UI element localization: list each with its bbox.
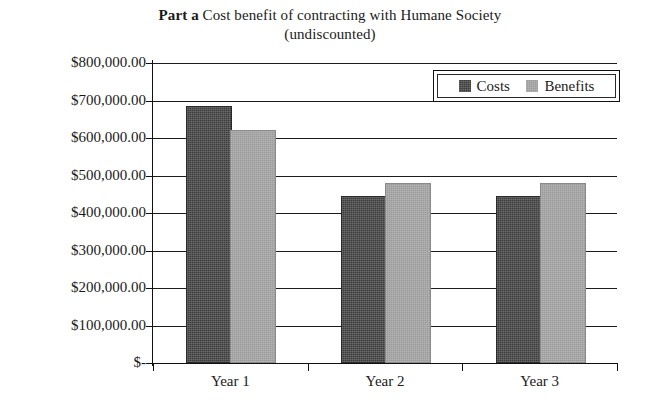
legend-swatch-costs-icon [459, 80, 471, 92]
y-axis-tick [146, 251, 153, 252]
y-axis-tick-label: $800,000.00 [6, 55, 146, 70]
x-axis-tick-label: Year 1 [153, 372, 308, 390]
plot-area [153, 63, 617, 363]
y-axis-tick [146, 63, 153, 64]
x-axis-tick-label: Year 3 [462, 372, 617, 390]
bar-benefits-year-3[interactable] [540, 183, 586, 363]
bar-costs-year-3[interactable] [496, 196, 542, 363]
bar-costs-year-2[interactable] [341, 196, 387, 363]
y-axis-tick-label: $- [6, 355, 146, 370]
y-axis-tick-label: $100,000.00 [6, 318, 146, 333]
legend-label-benefits: Benefits [544, 79, 594, 94]
gridline [153, 63, 617, 64]
y-axis-tick [146, 176, 153, 177]
x-axis-tick [153, 363, 154, 371]
y-axis-labels: $800,000.00$700,000.00$600,000.00$500,00… [0, 0, 146, 402]
y-axis-tick [146, 101, 153, 102]
x-axis-tick [462, 363, 463, 371]
y-axis-tick-label: $600,000.00 [6, 130, 146, 145]
y-axis-tick-label: $700,000.00 [6, 93, 146, 108]
y-axis-tick-label: $400,000.00 [6, 205, 146, 220]
legend-entry-costs[interactable]: Costs [459, 79, 510, 94]
chart-title-part-label: Part a [159, 7, 199, 23]
y-axis-tick [146, 288, 153, 289]
y-axis-tick [146, 326, 153, 327]
y-axis-tick [146, 213, 153, 214]
chart-title-line1: Cost benefit of contracting with Humane … [203, 7, 502, 23]
y-axis-tick-label: $500,000.00 [6, 168, 146, 183]
chart-legend: Costs Benefits [433, 70, 620, 102]
bar-costs-year-1[interactable] [186, 106, 232, 363]
legend-label-costs: Costs [477, 79, 510, 94]
chart-legend-inner: Costs Benefits [437, 74, 616, 98]
y-axis-tick-label: $300,000.00 [6, 243, 146, 258]
x-axis-tick-label: Year 2 [308, 372, 463, 390]
bar-benefits-year-2[interactable] [385, 183, 431, 363]
x-axis-tick [308, 363, 309, 371]
y-axis-tick-label: $200,000.00 [6, 280, 146, 295]
bar-benefits-year-1[interactable] [230, 130, 276, 363]
x-axis-line [152, 363, 618, 364]
legend-swatch-benefits-icon [526, 80, 538, 92]
x-axis-tick [617, 363, 618, 371]
bar-chart-figure: Part a Cost benefit of contracting with … [0, 0, 652, 402]
legend-entry-benefits[interactable]: Benefits [526, 79, 594, 94]
y-axis-tick [146, 138, 153, 139]
